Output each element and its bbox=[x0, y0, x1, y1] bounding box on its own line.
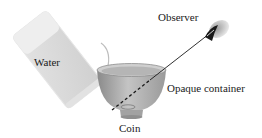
diagram-canvas bbox=[0, 0, 262, 138]
label-observer: Observer bbox=[158, 12, 198, 23]
observer-eye-icon bbox=[205, 16, 233, 42]
sight-line-visible bbox=[150, 34, 209, 80]
label-opaque-container: Opaque container bbox=[167, 83, 245, 94]
label-water: Water bbox=[34, 57, 60, 68]
water-stream bbox=[101, 43, 109, 66]
opaque-bowl bbox=[97, 64, 166, 120]
label-coin: Coin bbox=[119, 123, 140, 134]
